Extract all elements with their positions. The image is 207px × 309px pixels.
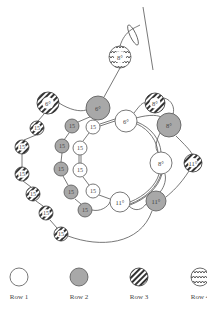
bead-size-label: 8° [152,100,158,107]
bead-size-label: 6° [123,118,129,125]
bead-size-label: 11° [189,160,198,167]
legend-item-row3: Row 3 [130,268,149,301]
legend-label-row4: Row 4 [191,293,207,301]
bead-size-label: 15 [68,189,74,195]
bead-row3: 15 [15,140,29,154]
legend-item-row4: Row 4 [191,268,207,301]
legend-item-row1: Row 1 [10,268,29,301]
bead-row1: 15 [73,141,87,155]
legend-item-row2: Row 2 [70,268,89,301]
bead-size-label: 8° [166,122,172,129]
bead-row1: 15 [73,163,87,177]
bead-row3: 8° [145,93,165,113]
bead-size-label: 15 [30,191,36,197]
bead-size-label: 8° [117,54,123,61]
bead-row3: 15 [30,121,44,135]
bead-size-label: 6° [95,105,101,112]
bead-row3: 15 [39,206,53,220]
bead-size-label: 15 [34,125,40,131]
bead-size-label: 15 [90,188,96,194]
bead-row2: 6° [86,96,110,120]
bead-row1: 6° [115,110,137,132]
bead-row2: 15 [55,139,69,153]
bead-row3: 15 [26,187,40,201]
bead-row2: 15 [64,185,78,199]
bead-row3: 6° [37,92,59,114]
bead-size-label: 15 [59,143,65,149]
legend-label-row3: Row 3 [130,293,149,301]
bead-row1: 15 [86,120,100,134]
bead-row1: 11° [110,192,130,212]
bead-row3: 15 [15,167,29,181]
bead-size-label: 15 [19,144,25,150]
bead-size-label: 15 [58,166,64,172]
bead-row1: 15 [86,184,100,198]
bead-row3: 11° [184,154,202,172]
bead-row1: 8° [150,152,172,174]
bead-size-label: 15 [77,145,83,151]
bead-diagram: 8°6°6°6°8°8°8°11°11°11°15151515151515151… [0,0,207,309]
bead-row2: 11° [146,191,166,211]
bead-size-label: 15 [19,171,25,177]
bead-size-label: 6° [45,100,51,107]
legend-label-row2: Row 2 [70,293,89,301]
beads-group: 8°6°6°6°8°8°8°11°11°11°15151515151515151… [15,46,202,241]
bead-size-label: 15 [77,167,83,173]
bead-size-label: 11° [152,198,161,205]
bead-size-label: 11° [116,199,125,206]
bead-row2: 15 [65,119,79,133]
bead-size-label: 15 [58,231,64,237]
bead-size-label: 15 [43,210,49,216]
bead-size-label: 8° [158,160,164,167]
bead-row2: 8° [157,113,181,137]
bead-row2: 15 [54,162,68,176]
bead-size-label: 15 [69,123,75,129]
bead-row2: 15 [78,203,92,217]
bead-row4: 8° [109,46,131,68]
legend-label-row1: Row 1 [10,293,29,301]
legend: Row 1 Row 2 Row 3 Row 4 [10,268,207,301]
bead-size-label: 15 [90,124,96,130]
bead-size-label: 15 [82,207,88,213]
bead-row3: 15 [54,227,68,241]
